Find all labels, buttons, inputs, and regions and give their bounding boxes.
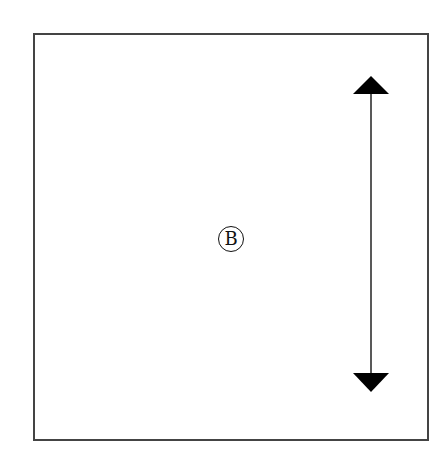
double-headed-arrow (0, 0, 447, 457)
arrow-head-down-icon (353, 373, 389, 392)
arrow-head-up-icon (353, 76, 389, 94)
